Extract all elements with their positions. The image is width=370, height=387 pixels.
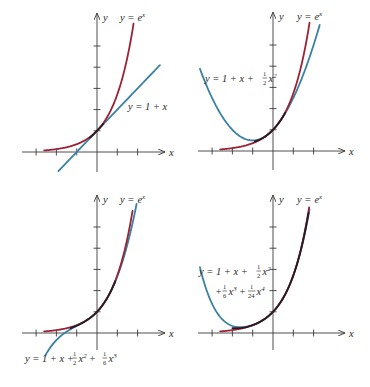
quadratic-label: y = 1 + x + bbox=[204, 73, 254, 84]
quartic-label-line2: + bbox=[215, 286, 222, 297]
svg-text:2: 2 bbox=[73, 359, 76, 366]
axes bbox=[22, 13, 165, 172]
fraction-one-sixth: 1 6 bbox=[103, 350, 108, 366]
y-axis-label: y bbox=[278, 11, 284, 22]
svg-text:x2: x2 bbox=[262, 265, 272, 277]
exp-label: y =ex bbox=[296, 10, 323, 22]
y-axis-label: y bbox=[102, 12, 108, 23]
taylor-approximation-figure: y x y =ex y = 1 + x y x y =ex y = 1 + x … bbox=[0, 0, 370, 387]
overlap-segment bbox=[71, 281, 116, 328]
panel-linear-approximation: y x y =ex y = 1 + x bbox=[22, 11, 174, 172]
svg-text:1: 1 bbox=[73, 350, 76, 357]
exp-label: y =ex bbox=[296, 193, 323, 205]
axes bbox=[22, 195, 165, 350]
y-axis-label: y bbox=[278, 194, 284, 205]
svg-text:x2: x2 bbox=[268, 72, 278, 84]
exp-label: y =ex bbox=[119, 11, 146, 23]
svg-text:1: 1 bbox=[257, 263, 260, 270]
linear-curve bbox=[58, 65, 159, 171]
x-axis-label: x bbox=[168, 328, 174, 339]
fraction-one-twentyfourth: 1 24 bbox=[248, 283, 256, 299]
x-axis-label: x bbox=[348, 146, 354, 157]
overlap-segment bbox=[255, 113, 285, 142]
svg-text:1: 1 bbox=[223, 283, 226, 290]
exp-label: y =ex bbox=[119, 193, 146, 205]
svg-text:x4: x4 bbox=[256, 285, 266, 297]
exp-curve bbox=[44, 24, 133, 151]
y-axis-label: y bbox=[102, 194, 108, 205]
fraction-one-sixth: 1 6 bbox=[223, 283, 228, 299]
svg-text:1: 1 bbox=[103, 350, 106, 357]
svg-text:x3: x3 bbox=[108, 352, 118, 364]
svg-text:2: 2 bbox=[257, 272, 260, 279]
fraction-one-half: 1 2 bbox=[73, 350, 78, 366]
svg-text:24: 24 bbox=[248, 292, 255, 299]
svg-text:1: 1 bbox=[250, 283, 253, 290]
panel-quartic-approximation: y x y =ex y = 1 + x + 1 2 x2 + 1 6 x3+ 1… bbox=[198, 193, 354, 350]
overlap-segment bbox=[90, 124, 103, 138]
fraction-one-half: 1 2 bbox=[263, 70, 268, 86]
svg-text:x3+: x3+ bbox=[228, 285, 246, 297]
panel-cubic-approximation: y x y =ex y = 1 + x + 1 2 x2+ 1 6 x3 bbox=[22, 193, 174, 366]
linear-label: y = 1 + x bbox=[127, 101, 168, 112]
cubic-label: y = 1 + x + bbox=[24, 353, 74, 364]
x-axis-label: x bbox=[348, 328, 354, 339]
svg-text:6: 6 bbox=[103, 359, 107, 366]
svg-text:6: 6 bbox=[223, 292, 227, 299]
fraction-one-half: 1 2 bbox=[257, 263, 262, 279]
svg-text:x2+: x2+ bbox=[78, 352, 96, 364]
panel-quadratic-approximation: y x y =ex y = 1 + x + 1 2 x2 bbox=[198, 10, 354, 170]
x-axis-label: x bbox=[168, 147, 174, 158]
exp-curve bbox=[44, 211, 132, 331]
axes bbox=[198, 12, 345, 170]
quartic-label-line1: y = 1 + x + bbox=[198, 266, 248, 277]
svg-text:1: 1 bbox=[263, 70, 266, 77]
svg-text:2: 2 bbox=[263, 79, 266, 86]
